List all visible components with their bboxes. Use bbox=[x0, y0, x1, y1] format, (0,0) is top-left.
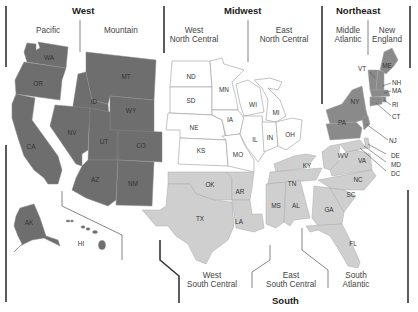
label-ky: KY bbox=[303, 162, 312, 169]
label-il: IL bbox=[252, 136, 258, 143]
state-nj bbox=[362, 116, 370, 130]
label-ia: IA bbox=[227, 116, 234, 123]
label-co: CO bbox=[136, 142, 146, 149]
label-al: AL bbox=[292, 202, 300, 209]
leader-de bbox=[368, 144, 386, 154]
state-ma bbox=[370, 90, 390, 97]
leader-nj bbox=[366, 124, 388, 140]
division-label-west-south-central-1: West bbox=[203, 271, 222, 280]
division-label-pacific: Pacific bbox=[36, 26, 60, 35]
division-label-new-england-1: New bbox=[379, 26, 395, 35]
leader-ct bbox=[376, 103, 391, 116]
label-ar: AR bbox=[236, 188, 245, 195]
label-nd: ND bbox=[186, 73, 196, 80]
label-me: ME bbox=[382, 62, 392, 69]
label-in: IN bbox=[267, 134, 274, 141]
state-ny bbox=[326, 86, 368, 124]
label-tn: TN bbox=[288, 180, 297, 187]
state-wy bbox=[110, 96, 154, 134]
division-label-west-south-central-2: South Central bbox=[187, 280, 237, 289]
label-ct: CT bbox=[392, 113, 401, 120]
label-dc: DC bbox=[391, 170, 401, 177]
label-nm: NM bbox=[128, 180, 138, 187]
label-ut: UT bbox=[100, 138, 109, 145]
label-ma: MA bbox=[392, 87, 402, 94]
label-id: ID bbox=[91, 98, 98, 105]
label-ks: KS bbox=[197, 147, 206, 154]
label-tx: TX bbox=[196, 215, 205, 222]
label-nv: NV bbox=[68, 129, 78, 136]
label-nc: NC bbox=[353, 176, 363, 183]
region-title-northeast: Northeast bbox=[336, 5, 381, 16]
division-label-east-south-central-2: South Central bbox=[266, 280, 316, 289]
label-mi: MI bbox=[272, 109, 279, 116]
label-ga: GA bbox=[324, 206, 334, 213]
label-wv: WV bbox=[338, 152, 349, 159]
division-label-new-england-2: England bbox=[372, 35, 402, 44]
label-mo: MO bbox=[233, 151, 243, 158]
label-ne: NE bbox=[190, 124, 199, 131]
label-ri: RI bbox=[392, 101, 399, 108]
label-wi: WI bbox=[249, 101, 257, 108]
label-ca: CA bbox=[27, 143, 37, 150]
state-ct bbox=[370, 97, 382, 106]
label-ny: NY bbox=[351, 98, 361, 105]
division-label-middle-atlantic-2: Atlantic bbox=[335, 35, 362, 44]
state-ak bbox=[14, 204, 60, 252]
label-vt: VT bbox=[358, 65, 366, 72]
label-fl: FL bbox=[349, 240, 357, 247]
state-az bbox=[72, 160, 118, 206]
division-label-south-atlantic-1: South bbox=[345, 271, 367, 280]
us-census-regions-map: West Midwest Northeast South Pacific Mou… bbox=[0, 0, 418, 312]
label-sd: SD bbox=[187, 97, 196, 104]
label-ms: MS bbox=[271, 202, 281, 209]
division-label-mountain: Mountain bbox=[104, 26, 138, 35]
state-la bbox=[232, 200, 264, 232]
label-wy: WY bbox=[126, 107, 137, 114]
label-hi: HI bbox=[78, 240, 85, 247]
division-label-middle-atlantic-1: Middle bbox=[336, 26, 361, 35]
label-az: AZ bbox=[91, 176, 99, 183]
label-md: MD bbox=[391, 161, 401, 168]
division-label-west-north-central-1: West bbox=[185, 26, 204, 35]
state-me bbox=[380, 48, 398, 74]
label-nh: NH bbox=[392, 79, 402, 86]
leader-ri bbox=[384, 100, 391, 105]
label-mt: MT bbox=[121, 73, 130, 80]
division-label-east-north-central-2: North Central bbox=[260, 35, 309, 44]
label-ak: AK bbox=[25, 219, 34, 226]
label-oh: OH bbox=[285, 131, 295, 138]
label-va: VA bbox=[358, 157, 367, 164]
label-nj: NJ bbox=[389, 137, 397, 144]
label-or: OR bbox=[33, 80, 43, 87]
divider-south-left bbox=[160, 240, 179, 303]
label-wa: WA bbox=[44, 54, 55, 61]
region-title-west: West bbox=[72, 5, 95, 16]
divider-esc-sa bbox=[302, 228, 328, 288]
label-mn: MN bbox=[219, 86, 229, 93]
division-label-east-south-central-1: East bbox=[283, 271, 300, 280]
label-de: DE bbox=[391, 152, 400, 159]
label-pa: PA bbox=[338, 119, 347, 126]
division-label-east-north-central-1: East bbox=[276, 26, 293, 35]
label-sc: SC bbox=[347, 191, 356, 198]
region-title-midwest: Midwest bbox=[224, 5, 262, 16]
label-ok: OK bbox=[205, 181, 215, 188]
label-la: LA bbox=[235, 218, 244, 225]
region-title-south: South bbox=[272, 295, 299, 306]
division-label-west-north-central-2: North Central bbox=[170, 35, 219, 44]
division-label-south-atlantic-2: Atlantic bbox=[343, 280, 370, 289]
